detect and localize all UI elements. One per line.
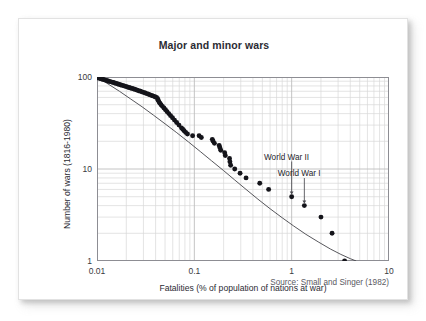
data-point <box>185 132 190 137</box>
data-point <box>319 215 324 220</box>
x-tick-label: 0.1 <box>188 266 200 276</box>
x-tick-label: 0.01 <box>89 266 106 276</box>
data-point <box>238 171 243 176</box>
data-point <box>302 203 307 208</box>
data-point <box>244 175 249 180</box>
plot-svg <box>97 77 389 261</box>
data-point <box>330 231 335 236</box>
chart-card: Major and minor wars Fatalities (% of po… <box>18 18 408 300</box>
data-point <box>228 163 233 168</box>
chart-title: Major and minor wars <box>19 39 409 51</box>
x-tick-label: 1 <box>289 266 294 276</box>
data-point <box>223 153 228 158</box>
y-axis-title: Number of wars (1816-1980) <box>62 82 72 266</box>
screenshot-root: Major and minor wars Fatalities (% of po… <box>0 0 426 321</box>
data-point <box>257 181 262 186</box>
data-point <box>212 141 217 146</box>
data-point <box>190 133 195 138</box>
data-point <box>266 187 271 192</box>
y-tick-label: 10 <box>61 164 92 174</box>
plot-area <box>97 77 389 261</box>
x-tick-label: 10 <box>384 266 393 276</box>
y-tick-label: 100 <box>61 72 92 82</box>
data-point <box>232 167 237 172</box>
annotation-label: World War II <box>264 153 309 162</box>
data-point <box>289 194 294 199</box>
source-note: Source: Small and Singer (1982) <box>270 278 389 287</box>
y-tick-label: 1 <box>61 256 92 266</box>
annotation-label: World War I <box>278 169 321 178</box>
data-point <box>199 135 204 140</box>
